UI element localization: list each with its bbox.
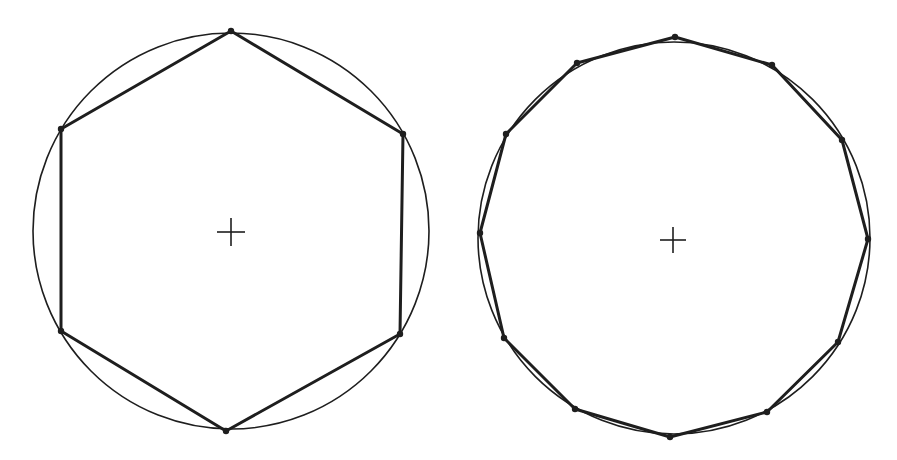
vertex-point — [58, 328, 64, 334]
background — [0, 0, 897, 460]
vertex-point — [865, 236, 871, 242]
vertex-point — [397, 331, 403, 337]
vertex-point — [400, 131, 406, 137]
vertex-point — [223, 428, 229, 434]
vertex-point — [672, 34, 678, 40]
vertex-point — [228, 28, 234, 34]
vertex-point — [477, 230, 483, 236]
vertex-point — [501, 335, 507, 341]
vertex-point — [503, 131, 509, 137]
vertex-point — [58, 126, 64, 132]
vertex-point — [839, 137, 845, 143]
vertex-point — [572, 406, 578, 412]
vertex-point — [764, 409, 770, 415]
vertex-point — [835, 339, 841, 345]
vertex-point — [574, 60, 580, 66]
inscribed-polygons-diagram — [0, 0, 897, 460]
vertex-point — [667, 434, 673, 440]
vertex-point — [769, 62, 775, 68]
